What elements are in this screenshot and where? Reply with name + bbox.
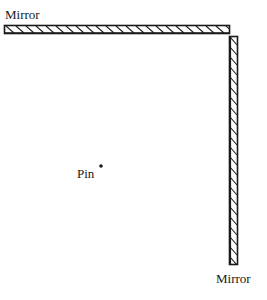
pin-label: Pin [77, 166, 94, 181]
top-mirror-label: Mirror [5, 7, 40, 22]
pin-dot [99, 164, 103, 168]
diagram-canvas [0, 0, 267, 300]
right-mirror-label: Mirror [216, 271, 251, 286]
top-mirror [4, 26, 234, 34]
right-mirror [230, 36, 238, 265]
